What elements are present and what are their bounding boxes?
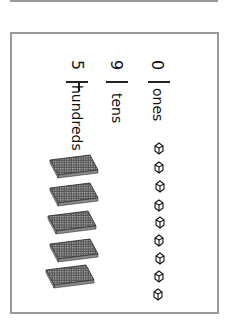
hundred-flat-icon [50, 183, 98, 206]
hundred-flat-icon [46, 265, 94, 288]
one-cube-icon [155, 200, 163, 211]
hundred-flat-icon [50, 155, 98, 178]
one-cube-icon [156, 217, 164, 228]
one-cube-icon [155, 235, 163, 246]
one-cube-icon [155, 162, 163, 173]
one-cube-icon [154, 289, 162, 300]
hundred-flat-icon [50, 239, 98, 262]
hundred-flat-icon [48, 211, 96, 234]
one-cube-icon [155, 143, 163, 154]
hundreds-flats [0, 0, 237, 327]
one-cube-icon [156, 253, 164, 264]
one-cube-icon [156, 181, 164, 192]
ones-cubes [154, 143, 164, 300]
one-cube-icon [155, 271, 163, 282]
